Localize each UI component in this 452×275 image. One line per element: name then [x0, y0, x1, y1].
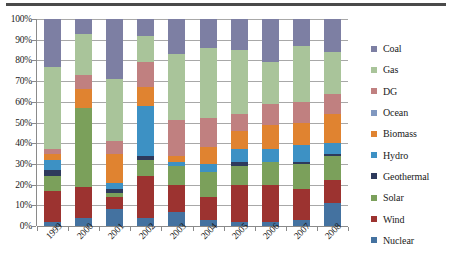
legend-item-biomass[interactable]: Biomass — [371, 123, 451, 144]
bar-segment-dg[interactable] — [324, 94, 341, 115]
y-axis-tick-label: 80% — [15, 55, 32, 65]
bar-group[interactable] — [262, 19, 279, 226]
bar-segment-geothermal[interactable] — [44, 170, 61, 176]
bar-segment-biomass[interactable] — [231, 131, 248, 150]
bar-segment-dg[interactable] — [106, 141, 123, 153]
bar-segment-dg[interactable] — [262, 104, 279, 125]
bar-segment-coal[interactable] — [200, 19, 217, 48]
bar-segment-hydro[interactable] — [44, 160, 61, 170]
bar-segment-coal[interactable] — [106, 19, 123, 79]
legend-item-gas[interactable]: Gas — [371, 59, 451, 80]
bar-segment-gas[interactable] — [324, 52, 341, 93]
bar-segment-hydro[interactable] — [293, 145, 310, 162]
legend-swatch-icon — [371, 110, 377, 116]
bar-segment-biomass[interactable] — [324, 114, 341, 143]
bar-segment-hydro[interactable] — [231, 149, 248, 161]
legend-item-ocean[interactable]: Ocean — [371, 102, 451, 123]
bar-group[interactable] — [168, 19, 185, 226]
bar-segment-hydro[interactable] — [324, 143, 341, 153]
bar-segment-coal[interactable] — [293, 19, 310, 46]
bar-segment-geothermal[interactable] — [293, 162, 310, 164]
bar-segment-hydro[interactable] — [137, 106, 154, 156]
legend-item-nuclear[interactable]: Nuclear — [371, 230, 451, 251]
bar-segment-solar[interactable] — [324, 156, 341, 181]
bar-segment-solar[interactable] — [200, 172, 217, 197]
bar-segment-dg[interactable] — [168, 120, 185, 155]
bar-segment-coal[interactable] — [44, 19, 61, 67]
bar-segment-solar[interactable] — [137, 160, 154, 177]
bar-segment-gas[interactable] — [106, 79, 123, 141]
y-axis-tick-mark — [32, 102, 36, 103]
bar-segment-dg[interactable] — [200, 118, 217, 147]
bar-segment-gas[interactable] — [293, 46, 310, 102]
bar-segment-solar[interactable] — [231, 166, 248, 185]
bar-segment-biomass[interactable] — [262, 125, 279, 150]
bar-segment-hydro[interactable] — [262, 149, 279, 161]
bar-segment-gas[interactable] — [168, 54, 185, 120]
bar-group[interactable] — [200, 19, 217, 226]
legend-swatch-icon — [371, 67, 377, 73]
bar-segment-hydro[interactable] — [200, 164, 217, 172]
bar-segment-coal[interactable] — [262, 19, 279, 62]
bar-group[interactable] — [44, 19, 61, 226]
bar-segment-wind[interactable] — [231, 185, 248, 222]
legend-item-dg[interactable]: DG — [371, 81, 451, 102]
bar-segment-geothermal[interactable] — [137, 156, 154, 160]
bar-segment-dg[interactable] — [231, 114, 248, 131]
bar-segment-geothermal[interactable] — [324, 154, 341, 156]
bar-segment-dg[interactable] — [293, 102, 310, 123]
bar-segment-solar[interactable] — [44, 176, 61, 190]
bar-segment-solar[interactable] — [75, 108, 92, 187]
bar-segment-biomass[interactable] — [137, 87, 154, 106]
bar-segment-coal[interactable] — [75, 19, 92, 33]
bar-segment-solar[interactable] — [168, 166, 185, 185]
bar-segment-wind[interactable] — [106, 197, 123, 209]
bar-segment-biomass[interactable] — [293, 123, 310, 146]
bar-segment-hydro[interactable] — [168, 162, 185, 166]
bar-segment-gas[interactable] — [200, 48, 217, 118]
bar-segment-gas[interactable] — [75, 34, 92, 75]
bar-segment-coal[interactable] — [231, 19, 248, 50]
bar-segment-wind[interactable] — [324, 180, 341, 203]
bar-segment-wind[interactable] — [137, 176, 154, 217]
bar-segment-wind[interactable] — [44, 191, 61, 222]
bar-segment-coal[interactable] — [137, 19, 154, 36]
bar-segment-wind[interactable] — [168, 185, 185, 212]
bar-group[interactable] — [231, 19, 248, 226]
bar-segment-biomass[interactable] — [200, 147, 217, 164]
bar-segment-biomass[interactable] — [75, 89, 92, 108]
bar-segment-biomass[interactable] — [168, 156, 185, 162]
bar-segment-biomass[interactable] — [44, 154, 61, 160]
bar-segment-gas[interactable] — [231, 50, 248, 114]
bar-group[interactable] — [137, 19, 154, 226]
bar-group[interactable] — [324, 19, 341, 226]
bar-segment-coal[interactable] — [168, 19, 185, 54]
bar-segment-solar[interactable] — [293, 164, 310, 189]
bar-segment-geothermal[interactable] — [231, 162, 248, 166]
legend-item-geothermal[interactable]: Geothermal — [371, 166, 451, 187]
bar-segment-biomass[interactable] — [106, 154, 123, 183]
bar-segment-geothermal[interactable] — [106, 189, 123, 193]
bar-segment-coal[interactable] — [324, 19, 341, 52]
bar-segment-solar[interactable] — [262, 162, 279, 185]
legend-item-wind[interactable]: Wind — [371, 208, 451, 229]
bar-segment-gas[interactable] — [137, 36, 154, 63]
bar-group[interactable] — [75, 19, 92, 226]
bar-segment-solar[interactable] — [106, 193, 123, 197]
legend-item-coal[interactable]: Coal — [371, 38, 451, 59]
legend-label: Ocean — [383, 107, 408, 118]
bar-segment-dg[interactable] — [44, 149, 61, 153]
bar-segment-dg[interactable] — [137, 62, 154, 87]
bar-segment-wind[interactable] — [293, 189, 310, 220]
bar-segment-hydro[interactable] — [106, 183, 123, 189]
bar-group[interactable] — [293, 19, 310, 226]
bar-segment-dg[interactable] — [75, 75, 92, 89]
bar-group[interactable] — [106, 19, 123, 226]
bar-segment-wind[interactable] — [200, 197, 217, 220]
bar-segment-gas[interactable] — [262, 62, 279, 103]
bar-segment-wind[interactable] — [75, 187, 92, 218]
legend-item-solar[interactable]: Solar — [371, 187, 451, 208]
bar-segment-wind[interactable] — [262, 185, 279, 222]
bar-segment-gas[interactable] — [44, 67, 61, 150]
legend-item-hydro[interactable]: Hydro — [371, 144, 451, 165]
